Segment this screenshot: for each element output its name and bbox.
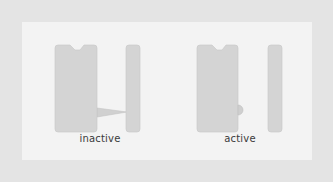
active-state-group	[197, 45, 282, 132]
active-side-bar	[268, 45, 282, 132]
active-bulge-connector	[238, 105, 243, 115]
state-diagram	[0, 0, 333, 182]
active-main-block	[197, 45, 238, 132]
inactive-label: inactive	[60, 133, 140, 144]
inactive-state-group	[55, 45, 140, 132]
inactive-wedge-connector	[97, 108, 127, 117]
inactive-main-block	[55, 45, 97, 132]
inactive-side-bar	[126, 45, 140, 132]
active-label: active	[200, 133, 280, 144]
